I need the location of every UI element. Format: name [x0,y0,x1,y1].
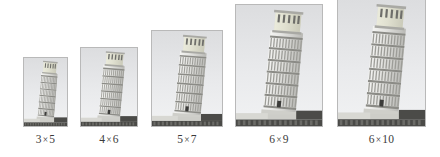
size-label-6x9: 6×9 [235,133,323,145]
size-label-6x10: 6×10 [337,133,426,145]
size-label-5x7: 5×7 [151,133,223,145]
size-label-height: 7 [191,133,197,145]
multiplication-sign: × [105,135,113,145]
size-label-width: 6 [369,133,375,145]
size-label-3x5: 3×5 [23,133,68,145]
multiplication-sign: × [375,135,383,145]
pisa-photo-image [81,48,137,126]
photo-frame-3x5[interactable] [23,57,68,127]
pisa-photo-image [338,0,425,126]
photo-frame-4x6[interactable] [80,47,138,127]
multiplication-sign: × [183,135,191,145]
figure-canvas: 3×5 [0,0,440,157]
photo-frame-6x10[interactable] [337,0,426,127]
pisa-photo-image [24,58,67,126]
multiplication-sign: × [42,135,50,145]
size-label-width: 3 [36,133,42,145]
size-label-height: 6 [113,133,119,145]
size-label-height: 5 [49,133,55,145]
pisa-photo-image [152,31,222,126]
size-label-4x6: 4×6 [80,133,138,145]
size-label-height: 9 [283,133,289,145]
multiplication-sign: × [275,135,283,145]
pisa-photo-image [236,5,322,126]
size-label-height: 10 [382,133,394,145]
photo-frame-5x7[interactable] [151,30,223,127]
photo-frame-6x9[interactable] [235,4,323,127]
